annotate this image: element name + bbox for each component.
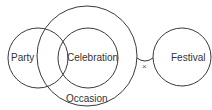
party-label: Party <box>11 52 34 63</box>
celebration-label: Celebration <box>67 52 118 63</box>
venn-diagram: Party Celebration Occasion Festival × <box>0 0 212 110</box>
occasion-label: Occasion <box>66 93 108 104</box>
festival-label: Festival <box>171 52 205 63</box>
disjoint-mark: × <box>142 62 147 71</box>
disjoint-connector <box>137 58 153 61</box>
